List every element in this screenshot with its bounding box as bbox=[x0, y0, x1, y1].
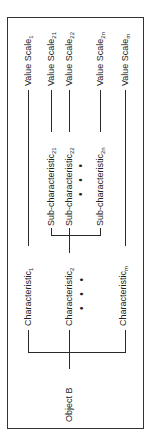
sub21-drop-line bbox=[51, 228, 52, 236]
sub-characteristic-2n-label: Sub-characteristic2n bbox=[95, 147, 108, 226]
characteristic-m-label: Characteristicm bbox=[118, 266, 131, 326]
value-scale-21-label: Value Scale21 bbox=[46, 32, 59, 86]
value-scale-22-label: Value Scale22 bbox=[64, 32, 77, 86]
sub22-drop-line bbox=[69, 228, 70, 236]
sub2n-drop-line bbox=[100, 228, 101, 236]
sub21-to-value-line bbox=[51, 90, 52, 132]
sub-characteristic-21-label: Sub-characteristic21 bbox=[46, 147, 59, 226]
sub-bracket-line bbox=[51, 235, 101, 236]
characteristic-1-label: Characteristic1 bbox=[23, 268, 36, 326]
char2-stem-line bbox=[69, 235, 70, 253]
hierarchy-diagram: Object B Characteristic1 Characteristic2… bbox=[0, 0, 146, 437]
value-scale-1-label: Value Scale1 bbox=[23, 35, 36, 86]
charm-drop-line bbox=[125, 330, 126, 353]
root-stem-line bbox=[69, 352, 70, 369]
value-scale-2n-label: Value Scale2n bbox=[95, 32, 108, 86]
root-bracket-line bbox=[28, 352, 126, 353]
char1-drop-line bbox=[28, 330, 29, 353]
sub-characteristics-ellipsis: • • • bbox=[76, 160, 86, 196]
sub2n-to-value-line bbox=[100, 90, 101, 132]
value-scale-m-label: Value Scalem bbox=[120, 34, 133, 86]
charm-to-value-line bbox=[125, 90, 126, 246]
char2-drop-line bbox=[69, 330, 70, 353]
sub22-to-value-line bbox=[69, 90, 70, 132]
char1-to-value-line bbox=[28, 90, 29, 246]
object-b-label: Object B bbox=[64, 387, 74, 422]
characteristics-ellipsis: • • • bbox=[77, 274, 87, 310]
